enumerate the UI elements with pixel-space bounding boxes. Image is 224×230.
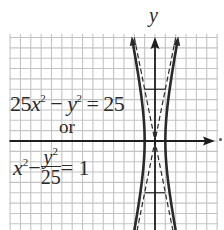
eq2-rhs: = 1 <box>61 155 90 180</box>
y-axis-label: y <box>149 4 158 27</box>
eq2-denominator: 25 <box>41 167 61 187</box>
axes <box>10 37 216 230</box>
eq1-x: x <box>31 91 40 116</box>
eq1-rhs: = 25 <box>81 91 124 116</box>
eq1-coef: 25 <box>10 91 31 116</box>
equation-standard: 25x2 − y2 = 25 <box>10 91 124 117</box>
equation-or: or <box>59 116 75 138</box>
eq2-num-exp: 2 <box>52 145 58 157</box>
eq2-minus: − <box>28 155 40 180</box>
grid <box>10 34 219 230</box>
eq2-fraction: y225 <box>41 148 61 187</box>
eq2-numerator: y2 <box>41 148 61 167</box>
x-axis-label-cut <box>219 138 222 141</box>
equation-normalized: x2−y225= 1 <box>13 150 90 189</box>
eq1-minus: − <box>45 91 67 116</box>
eq2-x: x <box>13 155 23 180</box>
